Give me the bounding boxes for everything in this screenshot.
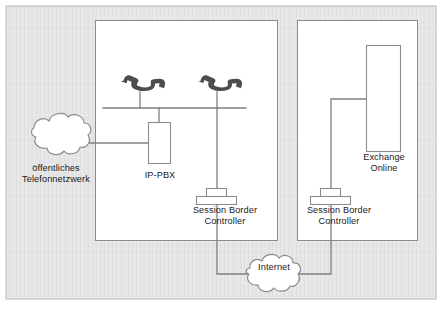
label-sbc-right: Session Border Controller <box>292 205 386 227</box>
label-exchange-online: Exchange Online <box>344 152 424 174</box>
exchange-online-node <box>367 46 401 152</box>
ip-pbx-node <box>149 123 171 164</box>
label-sbc-left: Session Border Controller <box>178 205 272 227</box>
label-ip-pbx: IP-PBX <box>118 170 202 181</box>
label-internet: Internet <box>243 262 305 273</box>
network-diagram: öffentliches Telefonnetzwerk IP-PBX Sess… <box>0 0 442 311</box>
label-pstn: öffentliches Telefonnetzwerk <box>2 163 110 185</box>
